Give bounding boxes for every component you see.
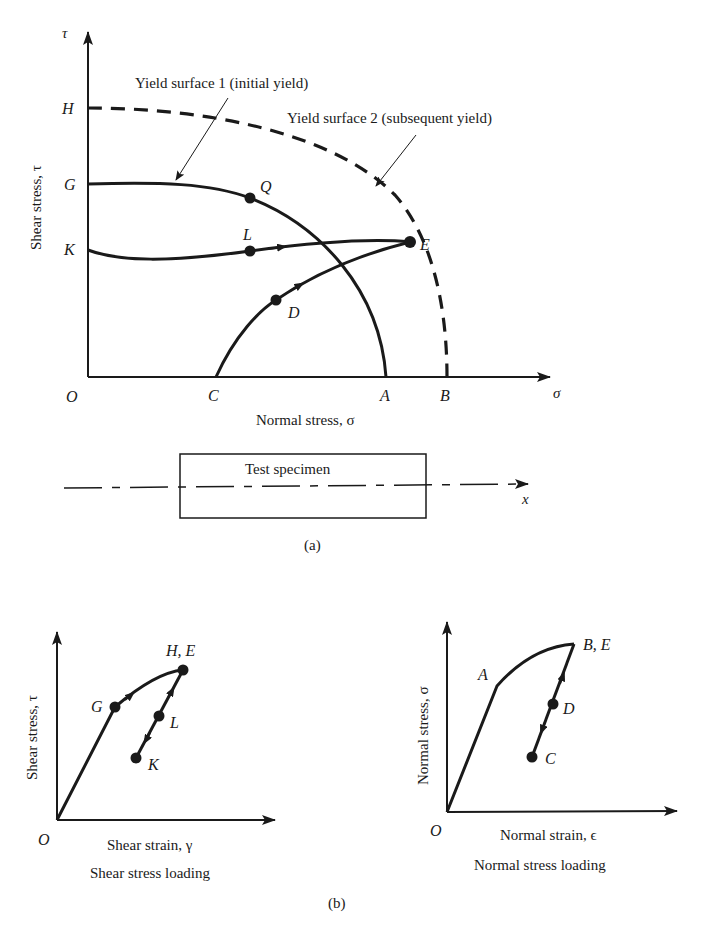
shear-point-L [154, 711, 165, 722]
specimen-axis-label: x [521, 491, 529, 507]
normal-label-BE: B, E [583, 636, 611, 653]
label-Q: Q [260, 178, 272, 195]
sigma-axis-symbol: σ [553, 385, 561, 401]
normal-label-D: D [562, 700, 575, 717]
label-L: L [242, 226, 252, 243]
shear-label-O: O [38, 831, 50, 848]
caption-a: (a) [304, 537, 321, 554]
label-C: C [208, 387, 219, 404]
label-D: D [287, 304, 300, 321]
normal-epsilon-axis [447, 811, 677, 812]
tau-axis-symbol: τ [62, 25, 68, 41]
specimen-centerline [64, 484, 528, 488]
point-Q [245, 193, 256, 204]
point-E [404, 236, 416, 248]
label-K: K [63, 241, 76, 258]
label-O: O [66, 388, 78, 405]
test-specimen-label: Test specimen [245, 461, 331, 477]
normal-plot-title: Normal stress loading [474, 857, 606, 873]
label-H: H [61, 100, 75, 117]
yield-surface-figure: τ σ H G K O C A B Q L E D Yield surface … [0, 0, 717, 938]
shear-label-L: L [169, 714, 179, 731]
shear-label-HE: H, E [165, 642, 196, 659]
shear-x-axis-label: Shear strain, γ [107, 837, 193, 853]
shear-label-K: K [147, 756, 160, 773]
shear-point-G [110, 702, 121, 713]
label-A: A [379, 387, 390, 404]
leader-arrow-surface-1 [176, 98, 228, 180]
normal-label-C: C [545, 750, 556, 767]
normal-point-C [527, 752, 538, 763]
point-D [271, 295, 282, 306]
shear-plot-title: Shear stress loading [90, 865, 210, 881]
normal-point-D [548, 699, 559, 710]
yield-surface-2-curve [88, 108, 447, 377]
yield-surface-1-label: Yield surface 1 (initial yield) [135, 75, 308, 92]
figure-a-stress-space: τ σ H G K O C A B Q L E D Yield surface … [28, 25, 561, 428]
shear-point-K [131, 753, 142, 764]
normal-x-axis-label: Normal strain, ϵ [500, 827, 596, 843]
y-axis-label: Shear stress, τ [28, 165, 44, 250]
test-specimen-diagram: Test specimen x [64, 454, 529, 518]
normal-label-A: A [477, 666, 488, 683]
point-L [245, 246, 256, 257]
direction-arrow-icon [290, 285, 300, 291]
shear-loading-curve [57, 670, 183, 820]
x-axis-label: Normal stress, σ [256, 412, 355, 428]
yield-surface-2-label: Yield surface 2 (subsequent yield) [287, 110, 492, 127]
yield-surface-1-curve [88, 183, 386, 377]
direction-arrow-icon [542, 722, 545, 730]
normal-loading-curve [447, 644, 574, 812]
shear-point-HE [178, 665, 189, 676]
figure-b-shear-plot: O G H, E L K Shear stress, τ Shear strai… [24, 632, 275, 881]
figure-b-normal-plot: O A B, E D C Normal stress, σ Normal str… [415, 622, 677, 873]
leader-arrow-surface-2 [376, 135, 416, 186]
label-G: G [64, 176, 76, 193]
normal-y-axis-label: Normal stress, σ [415, 687, 431, 786]
path-C-D-E [216, 242, 410, 377]
label-B: B [440, 387, 450, 404]
shear-label-G: G [91, 698, 103, 715]
label-E: E [419, 236, 430, 253]
shear-y-axis-label: Shear stress, τ [24, 695, 40, 780]
caption-b: (b) [328, 895, 346, 912]
normal-label-O: O [430, 822, 442, 839]
